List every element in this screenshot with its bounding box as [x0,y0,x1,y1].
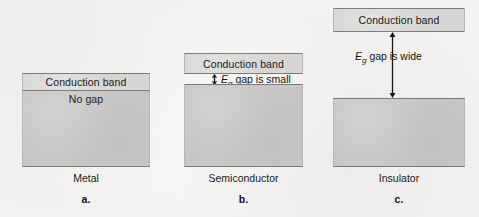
metal-no-gap-label: No gap [69,93,103,105]
metal-valence-band: No gap [22,90,150,167]
insulator-gap-label: Eg gap is wide [355,50,422,65]
panel-insulator: Conduction band Eg gap is wide Insulator… [333,8,465,217]
metal-conduction-band-label: Conduction band [46,76,127,88]
metal-caption: Metal [22,172,150,184]
insulator-letter: c. [333,193,465,205]
semiconductor-valence-band [184,84,303,167]
metal-letter: a. [22,193,150,205]
semiconductor-conduction-band: Conduction band [184,53,303,74]
insulator-gap-descriptor: gap is wide [366,50,421,62]
figure-canvas: Conduction band No gap Metal a. Conducti… [0,0,479,217]
insulator-conduction-band: Conduction band [333,8,465,32]
insulator-gap-symbol: E [355,50,362,62]
semiconductor-conduction-band-label: Conduction band [203,58,284,70]
panel-metal: Conduction band No gap Metal a. [22,73,150,217]
semiconductor-caption: Semiconductor [184,172,303,184]
semiconductor-letter: b. [184,193,303,205]
panel-semiconductor: Conduction band Eg gap is small Semicond… [184,53,303,217]
insulator-conduction-band-label: Conduction band [359,14,440,26]
metal-conduction-band: Conduction band [22,73,150,91]
insulator-caption: Insulator [333,172,465,184]
insulator-valence-band [333,98,465,167]
